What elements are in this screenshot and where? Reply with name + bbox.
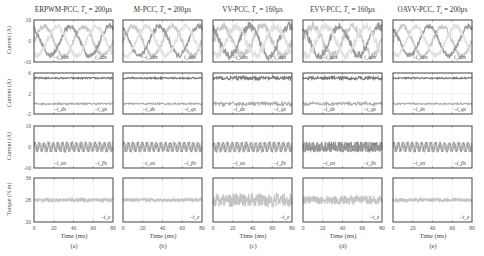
subplot-r0-c3: –i_absi_abs	[303, 20, 382, 62]
svg-text:–t_e: –t_e	[279, 214, 290, 220]
x-axis-label: Time (ms)	[213, 232, 293, 239]
svg-text:–t_e: –t_e	[189, 214, 200, 220]
subplot-title: ERPWM-PCC, Ts = 200µs	[24, 6, 123, 15]
x-tick-label: 0	[386, 225, 400, 231]
y-tick-label: -10	[17, 59, 31, 65]
x-tick-label: 60	[445, 225, 459, 231]
y-tick-label: -10	[17, 165, 31, 171]
subplot-title: OAVV-PCC, Ts = 200µs	[383, 6, 482, 15]
svg-text:–i_αs: –i_αs	[232, 160, 245, 166]
y-tick-label: 2	[17, 91, 31, 97]
y-tick-label: 0	[17, 38, 31, 44]
subplot-r0-c2: –i_absi_abs	[213, 20, 292, 62]
svg-text:–i_abs: –i_abs	[142, 54, 158, 60]
subplot-r0-c1: –i_absi_abs	[123, 20, 202, 62]
subplot-r1-c1: –i_ds–i_qs	[123, 73, 202, 114]
x-tick-label: 40	[246, 225, 260, 231]
svg-text:–t_e: –t_e	[100, 214, 111, 220]
x-tick-label: 0	[116, 225, 130, 231]
subplot-r2-c1: –i_αs–i_βs	[123, 126, 202, 168]
x-tick-label: 20	[316, 225, 330, 231]
svg-text:–i_ds: –i_ds	[142, 106, 155, 112]
x-tick-label: 40	[426, 225, 440, 231]
svg-text:–i_βs: –i_βs	[453, 160, 466, 166]
x-tick-label: 40	[156, 225, 170, 231]
svg-text:–i_βs: –i_βs	[363, 160, 376, 166]
subplot-r1-c2: –i_ds–i_qs	[213, 73, 292, 114]
x-tick-label: 20	[136, 225, 150, 231]
y-axis-label: Current (A)	[6, 15, 12, 65]
y-tick-label: 36	[17, 175, 31, 181]
subplot-r1-c4: –i_ds–i_qs	[393, 73, 472, 114]
svg-text:i_abs: i_abs	[274, 54, 286, 60]
y-axis-label: Torque (N.m)	[6, 174, 12, 224]
x-tick-label: 60	[265, 225, 279, 231]
svg-text:–i_αs: –i_αs	[412, 160, 425, 166]
x-tick-label: 20	[226, 225, 240, 231]
x-tick-label: 60	[86, 225, 100, 231]
subfigure-label: (a)	[34, 242, 114, 249]
x-axis-label: Time (ms)	[34, 232, 114, 239]
subfigure-label: (c)	[213, 242, 293, 249]
svg-text:i_abs: i_abs	[184, 54, 196, 60]
svg-text:i_abs: i_abs	[95, 54, 107, 60]
subfigure-label: (e)	[393, 242, 473, 249]
subplot-r2-c0: –i_αs–i_βs	[34, 126, 113, 168]
subfigure-label: (d)	[303, 242, 383, 249]
y-tick-label: 28	[17, 197, 31, 203]
subplot-r3-c4: –t_e	[393, 178, 472, 222]
svg-text:–i_ds: –i_ds	[322, 106, 335, 112]
svg-text:–t_e: –t_e	[459, 214, 470, 220]
subplot-r2-c3: –i_αs–i_βs	[303, 126, 382, 168]
x-tick-label: 0	[27, 225, 41, 231]
svg-text:–i_ds: –i_ds	[412, 106, 425, 112]
svg-text:–i_βs: –i_βs	[94, 160, 107, 166]
subplot-r2-c4: –i_αs–i_βs	[393, 126, 472, 168]
subplot-r0-c0: –i_absi_abs	[34, 20, 113, 62]
y-axis-label: Current (A)	[6, 121, 12, 171]
subplot-r0-c4: –i_absi_abs	[393, 20, 472, 62]
subplot-title: M-PCC, Ts = 200µs	[113, 6, 212, 15]
subplot-r3-c1: –t_e	[123, 178, 202, 222]
svg-text:–i_ds: –i_ds	[53, 106, 66, 112]
subfigure-label: (b)	[123, 242, 203, 249]
svg-text:–i_βs: –i_βs	[273, 160, 286, 166]
svg-text:–i_qs: –i_qs	[453, 106, 466, 112]
x-tick-label: 0	[206, 225, 220, 231]
svg-text:–i_abs: –i_abs	[53, 54, 69, 60]
svg-text:–i_αs: –i_αs	[322, 160, 335, 166]
subplot-r3-c2: –t_e	[213, 178, 292, 222]
subplot-r1-c3: –i_ds–i_qs	[303, 73, 382, 114]
x-tick-label: 20	[47, 225, 61, 231]
y-tick-label: 10	[17, 17, 31, 23]
x-tick-label: 60	[175, 225, 189, 231]
x-tick-label: 60	[355, 225, 369, 231]
x-tick-label: 0	[296, 225, 310, 231]
svg-text:–i_qs: –i_qs	[94, 106, 107, 112]
x-tick-label: 40	[67, 225, 81, 231]
svg-text:–i_abs: –i_abs	[232, 54, 248, 60]
svg-text:–i_qs: –i_qs	[183, 106, 196, 112]
y-tick-label: 6	[17, 70, 31, 76]
svg-text:–i_βs: –i_βs	[183, 160, 196, 166]
svg-text:i_abs: i_abs	[364, 54, 376, 60]
svg-text:–i_qs: –i_qs	[273, 106, 286, 112]
subplot-r3-c0: –t_e	[34, 178, 113, 222]
svg-text:–i_αs: –i_αs	[142, 160, 155, 166]
svg-text:–i_abs: –i_abs	[322, 54, 338, 60]
x-tick-label: 40	[336, 225, 350, 231]
svg-text:–i_qs: –i_qs	[363, 106, 376, 112]
svg-text:–t_e: –t_e	[369, 214, 380, 220]
y-tick-label: 10	[17, 123, 31, 129]
subplot-r3-c3: –t_e	[303, 178, 382, 222]
svg-text:–i_αs: –i_αs	[53, 160, 66, 166]
subplot-r1-c0: –i_ds–i_qs	[34, 73, 113, 114]
x-axis-label: Time (ms)	[123, 232, 203, 239]
svg-text:i_abs: i_abs	[454, 54, 466, 60]
x-axis-label: Time (ms)	[393, 232, 473, 239]
y-tick-label: 0	[17, 144, 31, 150]
y-axis-label: Current (A)	[6, 68, 12, 118]
x-tick-label: 20	[406, 225, 420, 231]
x-tick-label: 80	[465, 225, 479, 231]
subplot-r2-c2: –i_αs–i_βs	[213, 126, 292, 168]
